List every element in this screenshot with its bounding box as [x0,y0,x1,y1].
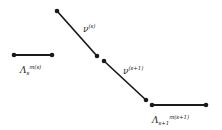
lambda-s-endpoint-right [50,53,55,58]
lambda-s-label: Λsm(s) [20,60,41,76]
lambda-s-plus-1-label-subscript: s+1 [159,120,170,126]
figure-canvas: Λsm(s) Λs+1m(s+1) ν(s) ν(s+1) [0,0,222,130]
nu-s-endpoint-top [55,9,60,14]
lambda-s-label-superscript: m(s) [29,64,41,70]
lambda-s-plus-1-segment [150,103,209,108]
lambda-s-plus-1-label: Λs+1m(s+1) [152,110,189,126]
nu-s-plus-1-endpoint-bottom [144,98,149,103]
nu-s-plus-1-label: ν(s+1) [123,61,143,77]
nu-s-label: ν(s) [83,19,95,35]
lambda-s-plus-1-endpoint-left [150,103,155,108]
lambda-s-plus-1-label-superscript: m(s+1) [169,114,189,120]
lambda-s-segment [12,53,55,58]
lambda-s-label-base: Λ [20,65,27,75]
nu-s-plus-1-endpoint-top [102,59,107,64]
nu-s-label-superscript: (s) [88,23,95,29]
lambda-s-plus-1-label-base: Λ [152,115,159,125]
lambda-s-endpoint-left [12,53,17,58]
nu-s-endpoint-bottom [95,54,100,59]
lambda-s-plus-1-endpoint-right [204,103,209,108]
nu-s-plus-1-label-superscript: (s+1) [128,65,143,71]
lambda-s-label-subscript: s [27,70,30,76]
